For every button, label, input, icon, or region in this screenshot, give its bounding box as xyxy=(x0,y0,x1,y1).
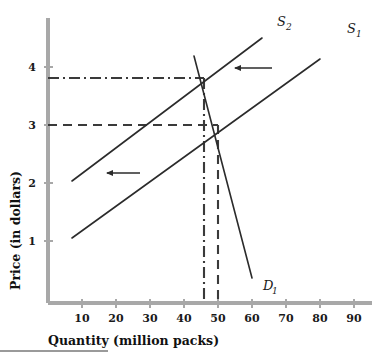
shift-arrow-lower-head xyxy=(106,170,113,176)
x-tick-label-40: 40 xyxy=(176,312,192,325)
curve-label-s2: S 2 xyxy=(277,14,292,32)
supply-curve-s2 xyxy=(72,38,262,181)
x-tick-label-60: 60 xyxy=(244,312,260,325)
y-tick-label-3: 3 xyxy=(28,119,36,132)
x-tick-label-20: 20 xyxy=(108,312,124,325)
x-tick-label-70: 70 xyxy=(278,312,294,325)
demand-curve-d1 xyxy=(194,56,252,278)
curve-label-s2-subscript: 2 xyxy=(285,22,292,32)
curve-label-s1-text: S xyxy=(347,21,356,36)
shift-arrow-upper xyxy=(234,65,272,71)
y-tick-label-4: 4 xyxy=(28,61,36,74)
y-tick-label-2: 2 xyxy=(28,177,36,190)
curve-label-s1-subscript: 1 xyxy=(356,29,362,39)
guide-lines-group xyxy=(48,78,218,303)
shift-arrow-lower xyxy=(106,170,140,176)
x-tick-label-30: 30 xyxy=(142,312,158,325)
curve-label-d1: D 1 xyxy=(262,278,278,296)
x-tick-label-90: 90 xyxy=(346,312,362,325)
x-axis-tick-labels: 10 20 30 40 50 60 70 80 90 xyxy=(74,312,362,325)
shift-arrow-upper-head xyxy=(234,65,241,71)
axes-group xyxy=(48,18,372,303)
supply-curve-s1 xyxy=(72,59,320,238)
y-tick-label-1: 1 xyxy=(28,235,36,248)
footer-rule xyxy=(0,350,108,352)
y-axis-title: Price (in dollars) xyxy=(8,171,23,290)
curve-label-d1-subscript: 1 xyxy=(272,286,278,296)
x-axis-title: Quantity (million packs) xyxy=(48,333,219,348)
curve-label-s2-text: S xyxy=(277,14,286,29)
x-tick-label-50: 50 xyxy=(210,312,226,325)
chart-canvas: 10 20 30 40 50 60 70 80 90 1 2 3 4 xyxy=(0,0,382,360)
supply-demand-chart: 10 20 30 40 50 60 70 80 90 1 2 3 4 xyxy=(0,0,382,360)
y-axis-tick-labels: 1 2 3 4 xyxy=(28,61,36,248)
curve-label-s1: S 1 xyxy=(347,21,362,39)
x-tick-label-10: 10 xyxy=(74,312,90,325)
x-tick-label-80: 80 xyxy=(312,312,328,325)
